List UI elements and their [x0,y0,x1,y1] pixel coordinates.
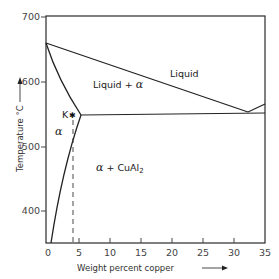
y-axis-ticks [41,17,46,211]
label-alpha-cual2: α + CuAl2 [96,161,144,175]
x-tick-20: 20 [166,247,178,258]
phase-diagram: 700 600 500 400 0 5 10 15 20 25 30 35 We… [0,0,279,279]
x-tick-30: 30 [228,247,240,258]
label-alpha: α [55,125,63,138]
label-alpha-cual2-rest: + CuAl [106,162,139,173]
label-liquid: Liquid [170,68,199,79]
label-alpha-cual2-greek: α [96,161,104,174]
x-tick-35: 35 [259,247,271,258]
y-tick-600: 600 [22,76,40,87]
x-axis-arrow-icon [202,266,228,271]
plot-frame [46,16,265,243]
label-k: K [62,109,69,120]
x-tick-0: 0 [45,247,51,258]
liquidus-line [46,43,248,112]
k-star-icon: ✱ [69,111,76,120]
liquidus-right-line [248,104,265,112]
y-axis-label: Temperature °C [15,105,25,173]
x-tick-5: 5 [76,247,82,258]
y-tick-700: 700 [22,11,40,22]
label-liquid-plus-alpha-greek: α [136,78,144,91]
label-liquid-plus-alpha: Liquid + α [93,78,144,91]
label-alpha-cual2-subscript: 2 [139,167,143,175]
label-liquid-plus-alpha-prefix: Liquid + [93,79,136,90]
x-axis-ticks [79,238,234,243]
x-tick-15: 15 [135,247,147,258]
y-tick-400: 400 [22,205,40,216]
x-tick-10: 10 [104,247,116,258]
x-tick-25: 25 [197,247,209,258]
eutectic-isotherm [81,113,265,115]
x-axis-label: Weight percent copper [77,263,174,273]
